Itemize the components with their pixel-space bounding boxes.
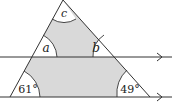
angle-c-label: c bbox=[61, 7, 67, 20]
geometry-diagram: c a b 61° 49° bbox=[0, 0, 173, 102]
angle-49-label: 49° bbox=[120, 83, 140, 96]
angle-b-label: b bbox=[92, 41, 100, 55]
angle-61-label: 61° bbox=[18, 83, 38, 96]
angle-a-label: a bbox=[42, 41, 49, 55]
